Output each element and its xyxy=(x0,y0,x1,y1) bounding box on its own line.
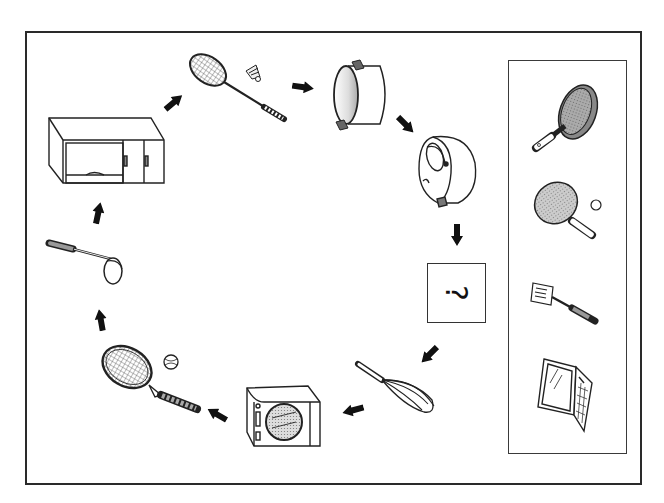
option-spatula[interactable] xyxy=(527,281,607,331)
question-mark: ? xyxy=(428,265,486,322)
ladle-icon xyxy=(47,237,127,287)
cycle-item-rice-cooker xyxy=(413,133,483,209)
cycle-item-wall-cabinet xyxy=(46,115,166,185)
spatula-icon xyxy=(527,281,607,331)
badminton-racket-icon xyxy=(186,55,296,125)
cycle-item-ladle xyxy=(47,237,127,287)
cycle-item-washing-machine xyxy=(244,382,324,450)
rice-cooker-icon xyxy=(413,133,483,209)
laptop-icon xyxy=(536,357,600,437)
frying-pan-icon xyxy=(530,82,602,152)
cabinet-icon xyxy=(46,115,166,185)
ping-pong-paddle-icon xyxy=(532,179,606,241)
option-ping-pong-paddle[interactable] xyxy=(532,179,606,241)
cycle-item-badminton-racket xyxy=(186,55,296,125)
cycle-item-whisk xyxy=(354,360,438,416)
cooking-pot-icon xyxy=(330,58,392,130)
tennis-racket-icon xyxy=(99,345,203,413)
whisk-icon xyxy=(354,360,438,416)
cycle-item-tennis-racket xyxy=(99,345,203,413)
option-laptop[interactable] xyxy=(536,357,600,437)
question-box: ? xyxy=(427,263,486,323)
cycle-item-cooking-pot xyxy=(330,58,392,130)
option-frying-pan[interactable] xyxy=(530,82,602,152)
arrow-ricecooker-to-question xyxy=(451,224,463,244)
washing-machine-icon xyxy=(244,382,324,450)
arrow-badminton-to-pot xyxy=(291,80,312,95)
